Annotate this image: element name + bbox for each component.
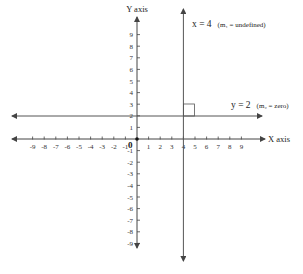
y-tick-label: 6 — [130, 66, 134, 74]
y-tick-label: -3 — [127, 170, 133, 178]
vertical-line-label: x = 4 (m₁ = undefined) — [192, 13, 266, 30]
y-tick-label: 1 — [130, 124, 134, 132]
x-axis-label: X axis — [268, 134, 290, 144]
x-tick-label: 3 — [170, 143, 174, 151]
y-tick-label: -6 — [127, 205, 133, 213]
x-tick-label: -2 — [111, 143, 117, 151]
y-tick-label: 3 — [130, 101, 134, 109]
y-tick-label: 4 — [130, 89, 134, 97]
y-tick-label: 7 — [130, 54, 134, 62]
x-tick-label: 7 — [216, 143, 220, 151]
y-tick-label: -2 — [127, 159, 133, 167]
x-tick-label: 2 — [158, 143, 162, 151]
x-tick-label: -6 — [64, 143, 70, 151]
x-tick-label: 8 — [228, 143, 232, 151]
origin-label: 0 — [128, 140, 133, 150]
y-tick-label: -5 — [127, 194, 133, 202]
x-tick-label: -9 — [30, 143, 36, 151]
y-tick-label: -4 — [127, 182, 133, 190]
x-tick-label: -3 — [99, 143, 105, 151]
y-tick-label: 9 — [130, 31, 134, 39]
x-tick-label: -7 — [53, 143, 59, 151]
y-tick-label: -9 — [127, 240, 133, 248]
x-tick-label: 1 — [147, 143, 151, 151]
coordinate-plane: X axis Y axis -9-8-7-6-5-4-3-2-112345678… — [0, 0, 303, 274]
origin-point — [135, 137, 139, 141]
horizontal-line-label: y = 2 (m₂ = zero) — [231, 94, 289, 111]
x-tick-label: -5 — [76, 143, 82, 151]
y-tick-label: 5 — [130, 78, 134, 86]
y-tick-label: 8 — [130, 43, 134, 51]
x-tick-label: -8 — [41, 143, 47, 151]
x-tick-label: 6 — [205, 143, 209, 151]
y-tick-label: -7 — [127, 217, 133, 225]
right-angle-marker — [183, 104, 194, 116]
y-tick-label: -8 — [127, 228, 133, 236]
x-tick-label: -4 — [88, 143, 94, 151]
x-tick-label: 9 — [240, 143, 244, 151]
x-tick-label: 5 — [193, 143, 197, 151]
y-axis-label: Y axis — [126, 4, 148, 14]
